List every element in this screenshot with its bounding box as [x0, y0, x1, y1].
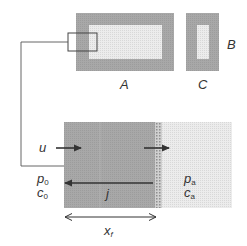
label-c0: c0 — [37, 185, 49, 201]
dark-region — [64, 122, 157, 208]
label-b: B — [227, 37, 236, 52]
light-region — [162, 122, 232, 208]
label-xf: xf — [103, 223, 114, 239]
label-c: C — [198, 77, 208, 92]
rect-c — [186, 13, 219, 71]
label-u: u — [39, 140, 46, 155]
label-a: A — [119, 77, 129, 92]
front-band — [155, 122, 162, 208]
magnified-region — [64, 122, 232, 208]
rect-a — [76, 13, 174, 71]
diagram-canvas: A C B u j p0 c0 pa ca xf — [0, 0, 247, 246]
